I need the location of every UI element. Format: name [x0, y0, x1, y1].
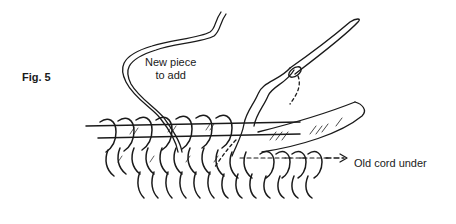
figure-label: Fig. 5	[22, 71, 51, 84]
figure-canvas: Fig. 5 New piece to add Old cord under	[0, 0, 456, 224]
coil-bottom-row	[138, 172, 312, 198]
coil-top-row	[86, 115, 300, 152]
needle-icon	[287, 19, 359, 79]
old-cord-annotation: Old cord under	[354, 157, 427, 170]
new-piece-line-1: New piece	[145, 56, 196, 69]
fiber-bundle	[258, 102, 364, 152]
new-piece-cord	[123, 12, 226, 152]
new-piece-annotation: New piece to add	[145, 56, 196, 82]
arrow-icon	[326, 154, 347, 162]
coil-illustration	[0, 0, 456, 224]
new-piece-line-2: to add	[145, 69, 196, 82]
